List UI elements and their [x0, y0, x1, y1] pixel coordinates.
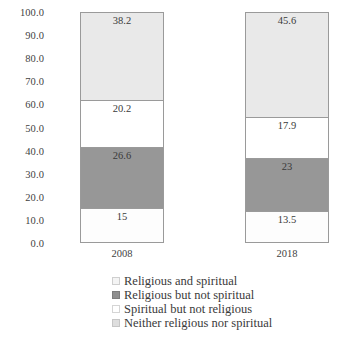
- legend-swatch-icon: [112, 291, 120, 299]
- stacked-bar-chart: 100.0 90.0 80.0 70.0 60.0 50.0 40.0 30.0…: [0, 0, 361, 349]
- legend-item-neither-religious-nor-spiritual[interactable]: Neither religious nor spiritual: [112, 316, 352, 330]
- bar-segment-value: 45.6: [278, 13, 296, 27]
- chart-legend: Religious and spiritual Religious but no…: [112, 274, 352, 330]
- legend-swatch-icon: [112, 305, 120, 313]
- bar-stack: 38.2 20.2 26.6 15: [80, 12, 164, 243]
- plot-area: 100.0 90.0 80.0 70.0 60.0 50.0 40.0 30.0…: [0, 0, 361, 262]
- bar-segment-religious-but-not-spiritual[interactable]: 23: [246, 158, 328, 211]
- bar-segment-value: 17.9: [278, 118, 296, 132]
- bar-segment-value: 13.5: [278, 212, 296, 226]
- bar-segment-value: 26.6: [113, 148, 131, 162]
- bar-segment-value: 38.2: [113, 13, 131, 27]
- legend-item-label: Spiritual but not religious: [124, 302, 252, 316]
- x-tick-label-2008: 2008: [80, 248, 164, 260]
- bar-group-2008[interactable]: 38.2 20.2 26.6 15: [80, 12, 164, 243]
- legend-swatch-icon: [112, 319, 120, 327]
- x-tick-label-2018: 2018: [245, 248, 329, 260]
- bar-group-2018[interactable]: 45.6 17.9 23 13.5: [245, 12, 329, 243]
- legend-item-religious-and-spiritual[interactable]: Religious and spiritual: [112, 274, 352, 288]
- bar-segment-value: 20.2: [113, 101, 131, 115]
- bar-segment-spiritual-but-not-religious[interactable]: 17.9: [246, 117, 328, 158]
- legend-swatch-icon: [112, 277, 120, 285]
- legend-item-religious-but-not-spiritual[interactable]: Religious but not spiritual: [112, 288, 352, 302]
- legend-item-label: Neither religious nor spiritual: [124, 316, 272, 330]
- bar-segment-value: 23: [282, 159, 293, 173]
- legend-item-label: Religious and spiritual: [124, 274, 237, 288]
- bar-segment-religious-and-spiritual[interactable]: 38.2: [81, 13, 163, 100]
- bar-segment-neither-religious-nor-spiritual[interactable]: 15: [81, 208, 163, 242]
- bar-segment-religious-and-spiritual[interactable]: 45.6: [246, 13, 328, 117]
- bar-segment-religious-but-not-spiritual[interactable]: 26.6: [81, 147, 163, 208]
- bar-segment-neither-religious-nor-spiritual[interactable]: 13.5: [246, 211, 328, 242]
- bars-layer: 38.2 20.2 26.6 15 2008: [0, 0, 361, 262]
- bar-stack: 45.6 17.9 23 13.5: [245, 12, 329, 243]
- legend-item-label: Religious but not spiritual: [124, 288, 254, 302]
- bar-segment-value: 15: [117, 209, 128, 223]
- bar-segment-spiritual-but-not-religious[interactable]: 20.2: [81, 100, 163, 146]
- legend-item-spiritual-but-not-religious[interactable]: Spiritual but not religious: [112, 302, 352, 316]
